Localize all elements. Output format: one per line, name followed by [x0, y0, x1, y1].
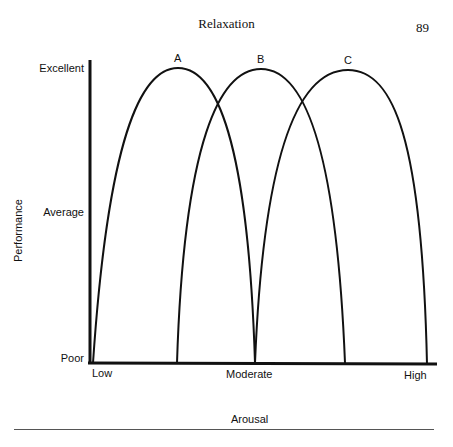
- curve-c: [255, 70, 427, 364]
- curve-a: [93, 68, 255, 363]
- curve-label-a: A: [174, 52, 181, 64]
- curve-b: [177, 69, 345, 363]
- y-tick-excellent: Excellent: [4, 62, 84, 74]
- x-axis-title: Arousal: [231, 413, 268, 425]
- x-tick-moderate: Moderate: [226, 368, 272, 380]
- x-axis: [88, 363, 437, 364]
- curve-label-c: C: [344, 54, 352, 66]
- y-tick-poor: Poor: [4, 352, 84, 364]
- x-tick-low: Low: [92, 367, 112, 379]
- page-rule: [14, 429, 434, 430]
- x-tick-high: High: [404, 369, 427, 381]
- curve-label-b: B: [257, 53, 264, 65]
- y-axis-title: Performance: [12, 199, 24, 262]
